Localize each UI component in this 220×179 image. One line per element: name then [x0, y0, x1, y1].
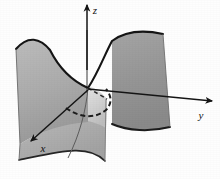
surface-group [16, 32, 170, 161]
x-axis-label: x [40, 142, 46, 154]
surface-plot-canvas: z y x [0, 0, 220, 179]
y-axis-label: y [198, 109, 204, 121]
surface-plot-figure: z y x [0, 0, 220, 179]
surface-lobe-right-back [112, 32, 170, 131]
z-axis-label: z [92, 4, 98, 16]
